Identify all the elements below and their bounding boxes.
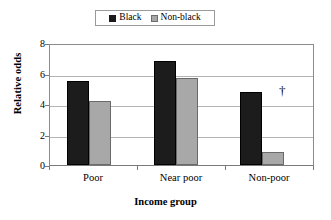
y-tick-label-8: 8 bbox=[25, 39, 45, 49]
gridline-6 bbox=[50, 76, 313, 77]
x-tick-mark-right bbox=[313, 166, 314, 170]
black-swatch-icon bbox=[109, 15, 116, 22]
bar-non-poor-black bbox=[240, 92, 262, 165]
legend-entry-black: Black bbox=[109, 13, 141, 23]
plot-area bbox=[49, 44, 314, 166]
y-axis-ticks: 0 2 4 6 8 bbox=[23, 44, 45, 166]
bar-near-poor-black bbox=[154, 61, 176, 166]
bar-non-poor-non-black bbox=[262, 152, 284, 165]
y-tick-label-0: 0 bbox=[25, 161, 45, 171]
x-tick-label-poor: Poor bbox=[83, 173, 103, 184]
y-axis-title: Relative odds bbox=[12, 49, 23, 119]
bar-poor-non-black bbox=[89, 101, 111, 165]
y-tick-label-6: 6 bbox=[25, 70, 45, 80]
x-axis-title: Income group bbox=[0, 196, 331, 207]
y-tick-label-4: 4 bbox=[25, 100, 45, 110]
dagger-footnote-icon: † bbox=[279, 84, 286, 97]
x-tick-label-non-poor: Non-poor bbox=[249, 173, 290, 184]
x-tick-mark-2 bbox=[225, 166, 226, 170]
chart-legend: Black Non-black bbox=[95, 10, 215, 26]
x-tick-mark-left bbox=[49, 166, 50, 170]
bar-chart-figure: Black Non-black Relative odds 0 2 4 6 8 bbox=[0, 0, 331, 220]
gray-swatch-icon bbox=[151, 15, 158, 22]
legend-entry-non-black: Non-black bbox=[151, 13, 201, 23]
legend-label-non-black: Non-black bbox=[161, 13, 201, 23]
bar-near-poor-non-black bbox=[176, 78, 198, 165]
legend-label-black: Black bbox=[119, 13, 141, 23]
x-tick-label-near-poor: Near poor bbox=[160, 173, 202, 184]
bar-poor-black bbox=[67, 81, 89, 165]
x-tick-mark-1 bbox=[137, 166, 138, 170]
y-tick-label-2: 2 bbox=[25, 131, 45, 141]
